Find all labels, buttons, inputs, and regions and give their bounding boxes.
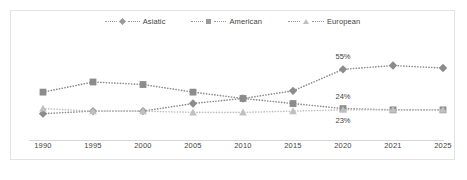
data-label-55: 55% [335, 52, 350, 61]
plot-svg [11, 11, 456, 161]
data-point-marker[interactable] [90, 79, 97, 86]
data-label-23: 23% [335, 116, 350, 125]
chart-container: Asiatic American European 55%24%23% 1990… [10, 10, 455, 160]
x-tick-1990: 1990 [34, 141, 52, 150]
data-point-marker[interactable] [389, 61, 397, 69]
x-tick-2025: 2025 [434, 141, 452, 150]
x-tick-2021: 2021 [384, 141, 402, 150]
series-line-asiatic [43, 66, 443, 114]
x-tick-2005: 2005 [184, 141, 202, 150]
x-tick-2010: 2010 [234, 141, 252, 150]
x-axis: 199019952000200520102015202020212025 [11, 141, 456, 155]
data-point-marker[interactable] [189, 109, 197, 116]
x-tick-2020: 2020 [334, 141, 352, 150]
series-american [40, 79, 447, 114]
data-point-marker[interactable] [439, 64, 447, 72]
plot-area: 55%24%23% [11, 11, 456, 161]
data-point-marker[interactable] [289, 87, 297, 95]
data-point-marker[interactable] [239, 109, 247, 116]
data-point-marker[interactable] [190, 89, 197, 96]
x-tick-1995: 1995 [84, 141, 102, 150]
data-point-marker[interactable] [40, 89, 47, 96]
data-point-marker[interactable] [339, 65, 347, 73]
data-point-marker[interactable] [140, 81, 147, 88]
data-point-marker[interactable] [240, 95, 247, 102]
x-tick-2015: 2015 [284, 141, 302, 150]
data-point-marker[interactable] [189, 99, 197, 107]
data-label-24: 24% [335, 92, 350, 101]
x-tick-2000: 2000 [134, 141, 152, 150]
data-point-marker[interactable] [290, 100, 297, 107]
